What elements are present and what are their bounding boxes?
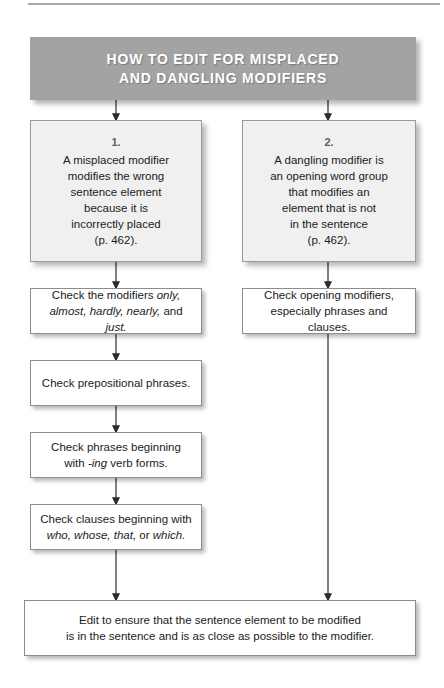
step-box-relative-clauses: Check clauses beginning with who, whose,… <box>30 504 202 550</box>
def2-line-3: that modifies an <box>288 186 369 198</box>
def2-line-4: element that is not <box>282 202 376 214</box>
step-number-1: 1. <box>37 134 195 150</box>
conclusion-line-2: is in the sentence and is as close as po… <box>66 630 374 642</box>
definition-box-misplaced-modifier: 1. A misplaced modifier modifies the wro… <box>30 120 202 262</box>
l3-line-1: Check phrases beginning <box>51 441 181 453</box>
l2-text: Check prepositional phrases. <box>42 377 190 389</box>
definition-text-2: A dangling modifier is an opening word g… <box>249 152 409 248</box>
l3-italic-ing: -ing <box>88 457 107 469</box>
def1-line-4: because it is <box>84 202 148 214</box>
def1-line-1: A misplaced modifier <box>63 154 169 166</box>
l4-text-or: or <box>136 529 153 541</box>
step-number-2: 2. <box>249 134 409 150</box>
step-box-opening-modifiers: Check opening modifiers, especially phra… <box>242 288 416 334</box>
step-box-check-modifiers: Check the modifiers only, almost, hardly… <box>30 288 202 334</box>
definition-text-1: A misplaced modifier modifies the wrong … <box>37 152 195 248</box>
l1-text-and: and <box>160 305 182 317</box>
conclusion-line-1: Edit to ensure that the sentence element… <box>79 614 361 626</box>
def1-line-3: sentence element <box>71 186 162 198</box>
def2-line-1: A dangling modifier is <box>274 154 383 166</box>
l3-line-2-a: with <box>64 457 88 469</box>
step-box-prepositional-phrases: Check prepositional phrases. <box>30 360 202 406</box>
r1-line-2: especially phrases and clauses. <box>271 305 388 333</box>
def1-line-5: incorrectly placed <box>71 218 160 230</box>
def2-line-2: an opening word group <box>270 170 388 182</box>
conclusion-box: Edit to ensure that the sentence element… <box>24 600 416 656</box>
l4-italic-which: which. <box>153 529 186 541</box>
l3-line-2-b: verb forms. <box>107 457 168 469</box>
flowchart-title-text: HOW TO EDIT FOR MISPLACED AND DANGLING M… <box>107 50 340 88</box>
l1-italic-list: almost, hardly, nearly, <box>49 305 160 317</box>
def2-line-6: (p. 462). <box>308 234 351 246</box>
l1-italic-just: just. <box>105 321 126 333</box>
title-line-2: AND DANGLING MODIFIERS <box>119 70 327 86</box>
l1-text-a: Check the modifiers <box>52 289 157 301</box>
step-box-ing-verb-phrases: Check phrases beginning with -ing verb f… <box>30 432 202 478</box>
top-divider-rule <box>28 3 440 5</box>
definition-box-dangling-modifier: 2. A dangling modifier is an opening wor… <box>242 120 416 262</box>
flowchart-root: HOW TO EDIT FOR MISPLACED AND DANGLING M… <box>0 0 444 688</box>
def1-line-6: (p. 462). <box>95 234 138 246</box>
title-line-1: HOW TO EDIT FOR MISPLACED <box>107 51 340 67</box>
def2-line-5: in the sentence <box>290 218 368 230</box>
connector-layer <box>0 0 444 688</box>
l4-line-1: Check clauses beginning with <box>40 513 192 525</box>
r1-line-1: Check opening modifiers, <box>264 289 394 301</box>
flowchart-title-banner: HOW TO EDIT FOR MISPLACED AND DANGLING M… <box>30 37 416 100</box>
l1-italic-only: only, <box>157 289 180 301</box>
l4-italic-pronouns: who, whose, that, <box>47 529 137 541</box>
def1-line-2: modifies the wrong <box>68 170 165 182</box>
